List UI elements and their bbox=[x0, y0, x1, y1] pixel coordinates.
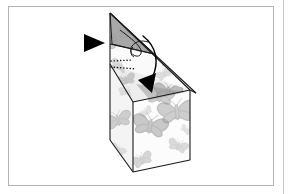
illustration-stage bbox=[0, 0, 291, 194]
box-folding-illustration bbox=[0, 0, 291, 194]
